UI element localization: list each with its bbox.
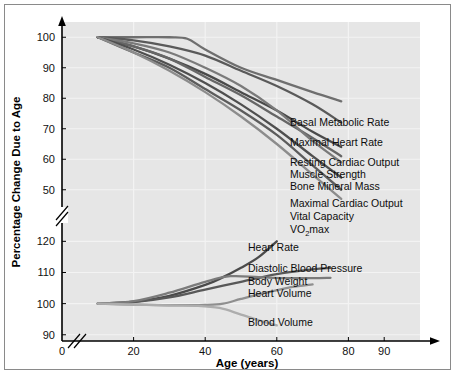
- series-label: Bone Mineral Mass: [290, 180, 380, 192]
- x-axis-arrowhead: [430, 337, 440, 345]
- y-tick-label: 100: [37, 31, 55, 43]
- y-tick-label: 60: [43, 153, 55, 165]
- y-tick-label: 120: [37, 235, 55, 247]
- x-tick-label: 60: [271, 345, 283, 357]
- x-axis-title: Age (years): [216, 357, 279, 369]
- figure-root: 5060708090100 90100110120 02040608090 Pe…: [0, 0, 457, 385]
- x-tick-label: 0: [59, 345, 65, 357]
- y-tick-label: 110: [37, 266, 55, 278]
- x-tick-label: 90: [378, 345, 390, 357]
- series-label: Heart Rate: [248, 241, 299, 253]
- y-tick-label: 80: [43, 92, 55, 104]
- series-label: Basal Metabolic Rate: [290, 116, 389, 128]
- x-tick-label: 20: [127, 345, 139, 357]
- series-label: Diastolic Blood Pressure: [248, 262, 363, 274]
- y-tick-label: 70: [43, 123, 55, 135]
- series-label: Blood Volume: [248, 316, 313, 328]
- series-label: Heart Volume: [248, 287, 312, 299]
- x-tick-label: 80: [342, 345, 354, 357]
- series-label: Muscle Strength: [290, 168, 366, 180]
- y-axis-title: Percentage Change Due to Age: [10, 97, 22, 268]
- y-tick-label: 100: [37, 298, 55, 310]
- series-label: Maximal Cardiac Output: [290, 197, 403, 209]
- y-tick-label: 50: [43, 184, 55, 196]
- series-label: Vital Capacity: [290, 210, 355, 222]
- y-tick-label: 90: [43, 62, 55, 74]
- y-axis-arrowhead: [58, 16, 66, 26]
- series-label: Maximal Heart Rate: [290, 136, 383, 148]
- y-tick-label: 90: [43, 329, 55, 341]
- y-axis-break-mark: [56, 206, 68, 226]
- x-tick-label: 40: [199, 345, 211, 357]
- series-label: Body Weight: [248, 275, 307, 287]
- age-related-physiological-change-chart: 5060708090100 90100110120 02040608090 Pe…: [0, 0, 457, 385]
- series-label: Resting Cardiac Output: [290, 156, 399, 168]
